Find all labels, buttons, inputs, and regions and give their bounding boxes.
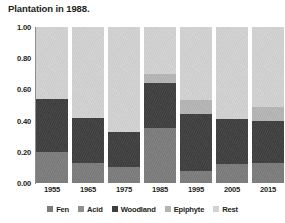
legend-swatch-icon (47, 206, 53, 212)
bar-2015[interactable] (252, 27, 284, 183)
y-axis-tick: 0.80 (17, 54, 31, 63)
texture-overlay (108, 132, 140, 168)
bar-segment-epiphyte[interactable] (252, 107, 284, 121)
bar-segment-rest[interactable] (252, 27, 284, 107)
bar-segment-fen[interactable] (108, 167, 140, 183)
y-axis-tick: 0.40 (17, 116, 31, 125)
legend-item-woodland[interactable]: Woodland (112, 205, 156, 214)
texture-overlay (180, 114, 212, 170)
texture-overlay (36, 152, 68, 183)
x-axis-tick: 1975 (108, 185, 140, 199)
figure-caption: Plantation in 1988. (8, 3, 90, 14)
texture-overlay (72, 27, 104, 117)
bar-segment-woodland[interactable] (72, 118, 104, 163)
bar-segment-rest[interactable] (36, 27, 68, 99)
legend-label: Epiphyte (174, 205, 204, 214)
texture-overlay (72, 118, 104, 163)
bar-segment-woodland[interactable] (252, 121, 284, 163)
x-axis-tick: 1955 (36, 185, 68, 199)
texture-overlay (252, 107, 284, 121)
texture-overlay (216, 27, 248, 119)
bar-segment-fen[interactable] (36, 152, 68, 183)
texture-overlay (216, 119, 248, 164)
bar-segment-woodland[interactable] (144, 83, 176, 128)
bar-segment-rest[interactable] (216, 27, 248, 119)
bar-2005[interactable] (216, 27, 248, 183)
texture-overlay (252, 163, 284, 183)
texture-overlay (252, 27, 284, 107)
plot-area (36, 27, 284, 183)
x-axis-tick: 2015 (252, 185, 284, 199)
y-axis-tick: 0.60 (17, 85, 31, 94)
legend-label: Fen (56, 205, 69, 214)
texture-overlay (36, 99, 68, 152)
legend-item-rest[interactable]: Rest (213, 205, 238, 214)
bar-segment-woodland[interactable] (180, 114, 212, 170)
texture-overlay (72, 163, 104, 183)
legend-label: Acid (87, 205, 103, 214)
texture-overlay (216, 164, 248, 183)
texture-overlay (180, 171, 212, 183)
legend-item-fen[interactable]: Fen (47, 205, 69, 214)
bar-segment-rest[interactable] (144, 27, 176, 74)
bar-1975[interactable] (108, 27, 140, 183)
bar-segment-fen[interactable] (180, 171, 212, 183)
legend-item-epiphyte[interactable]: Epiphyte (165, 205, 204, 214)
legend-swatch-icon (213, 206, 219, 212)
bar-segment-fen[interactable] (72, 163, 104, 183)
x-axis-tick: 1985 (144, 185, 176, 199)
texture-overlay (252, 121, 284, 163)
bar-1955[interactable] (36, 27, 68, 183)
texture-overlay (144, 83, 176, 128)
legend-swatch-icon (165, 206, 171, 212)
texture-overlay (144, 74, 176, 83)
texture-overlay (108, 27, 140, 132)
texture-overlay (180, 100, 212, 114)
y-axis-tick: 1.00 (17, 23, 31, 32)
texture-overlay (144, 27, 176, 74)
y-axis-tick: 0.20 (17, 147, 31, 156)
y-axis-labels: 1.000.800.600.400.200.00 (0, 22, 34, 190)
bar-segment-fen[interactable] (144, 128, 176, 183)
legend-swatch-icon (78, 206, 84, 212)
x-axis-tick: 1965 (72, 185, 104, 199)
bar-segment-epiphyte[interactable] (144, 74, 176, 83)
texture-overlay (180, 27, 212, 100)
bar-1985[interactable] (144, 27, 176, 183)
x-axis-labels: 1955196519751985199520052015 (36, 185, 284, 199)
bar-segment-fen[interactable] (252, 163, 284, 183)
bar-group (36, 27, 284, 183)
bar-segment-woodland[interactable] (108, 132, 140, 168)
texture-overlay (36, 27, 68, 99)
bar-segment-fen[interactable] (216, 164, 248, 183)
bar-segment-rest[interactable] (72, 27, 104, 117)
bar-1965[interactable] (72, 27, 104, 183)
bar-segment-rest[interactable] (108, 27, 140, 132)
texture-overlay (108, 167, 140, 183)
legend-item-acid[interactable]: Acid (78, 205, 103, 214)
bar-segment-epiphyte[interactable] (180, 100, 212, 114)
bar-segment-woodland[interactable] (216, 119, 248, 164)
legend-label: Rest (222, 205, 238, 214)
chart-legend: FenAcidWoodlandEpiphyteRest (0, 201, 285, 217)
bar-1995[interactable] (180, 27, 212, 183)
bar-segment-woodland[interactable] (36, 99, 68, 152)
x-axis-tick: 2005 (216, 185, 248, 199)
y-axis-tick: 0.00 (17, 179, 31, 188)
figure: Plantation in 1988. 1.000.800.600.400.20… (0, 0, 285, 223)
legend-label: Woodland (121, 205, 156, 214)
legend-swatch-icon (112, 206, 118, 212)
x-axis-tick: 1995 (180, 185, 212, 199)
bar-segment-rest[interactable] (180, 27, 212, 100)
texture-overlay (144, 128, 176, 183)
